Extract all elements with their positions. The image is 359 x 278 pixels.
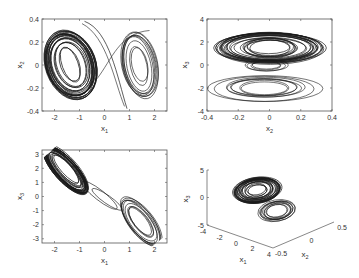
y-tick-label: 3 [35,151,39,158]
x-tick-label: 0 [103,246,107,253]
y-axis-label: x3 [15,193,25,200]
x1-tick-label: -2 [216,234,222,241]
subplot-x1-x2: -2-1012-0.4-0.200.20.4x1x2 [15,16,167,135]
x-tick-label: -1 [76,114,82,121]
x-axis-label: x2 [266,124,273,134]
y-tick-label: 0 [35,62,39,69]
axes-box [42,19,167,111]
x-tick-label: 1 [128,246,132,253]
x1-tick-label: -4 [200,228,206,235]
y-tick-label: -2 [33,221,39,228]
x1-tick-label: 0 [234,240,238,247]
y-tick-label: 0.2 [29,39,39,46]
y-tick-label: 2 [200,39,204,46]
x1-axis-label: x1 [239,255,246,265]
x2-tick-label: 0 [310,237,314,244]
x-tick-label: -1 [76,246,82,253]
y-tick-label: -2 [198,85,204,92]
subplot-x2-x3: -0.4-0.200.20.4-4-2024x2x3 [180,16,337,135]
x2-tick-label: 0.5 [337,224,347,231]
y-tick-label: -0.4 [27,108,39,115]
axes-box [42,150,167,243]
figure: -2-1012-0.4-0.200.20.4x1x2 -0.4-0.200.20… [0,0,359,278]
y-tick-label: 0 [35,193,39,200]
x-tick-label: 0.4 [327,114,337,121]
y-axis-label: x3 [180,61,190,68]
y-tick-label: -0.2 [27,85,39,92]
y-tick-label: -4 [198,108,204,115]
x-tick-label: 0 [103,114,107,121]
y-tick-label: 4 [200,16,204,23]
x-tick-label: 0 [268,114,272,121]
x2-axis [273,222,334,248]
y-tick-label: 2 [35,165,39,172]
y-tick-label: -3 [33,235,39,242]
y-tick-label: 1 [35,179,39,186]
x-tick-label: -0.4 [201,114,213,121]
x1-tick-label: 2 [251,245,255,252]
y-tick-label: -1 [33,207,39,214]
x2-tick-label: -0.5 [275,250,287,257]
x3-axis-label: x3 [181,195,191,202]
z-tick-label: 0 [200,194,204,201]
x-tick-label: 1 [128,114,132,121]
x-tick-label: 0.2 [296,114,306,121]
x-axis-label: x1 [101,124,108,134]
x-tick-label: -2 [51,114,57,121]
subplot-3d: -505-4-2024-0.500.5x1x2x3 [181,167,347,266]
y-tick-label: 0 [200,62,204,69]
z-tick-label: 5 [200,167,204,174]
y-axis-label: x2 [15,61,25,68]
x2-axis-label: x2 [301,250,308,260]
x-tick-label: -0.2 [232,114,244,121]
x-axis-label: x1 [101,256,108,266]
x1-tick-label: 4 [267,251,271,258]
subplot-x1-x3: -2-1012-3-2-10123x1x3 [15,138,169,266]
y-tick-label: 0.4 [29,16,39,23]
x-tick-label: 2 [153,114,157,121]
x-tick-label: -2 [51,246,57,253]
x-tick-label: 2 [153,246,157,253]
